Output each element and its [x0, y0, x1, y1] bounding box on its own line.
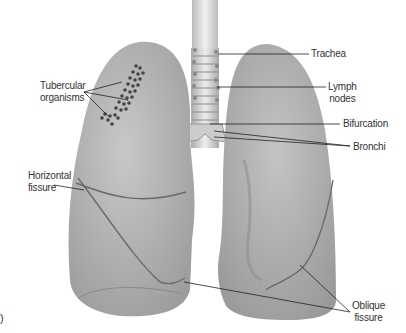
panel-marker: ) — [0, 312, 3, 324]
label-line: organisms — [40, 92, 85, 104]
label-lymph-nodes: Lymph nodes — [328, 81, 357, 105]
label-line: Oblique — [352, 300, 385, 312]
label-line: nodes — [328, 93, 357, 105]
label-line: Horizontal — [28, 170, 71, 182]
label-line: Lymph — [328, 81, 357, 93]
label-line: fissure — [352, 312, 385, 324]
label-line: Tubercular — [40, 80, 85, 92]
label-trachea: Trachea — [311, 48, 346, 60]
label-line: fissure — [28, 182, 71, 194]
label-oblique-fissure: Oblique fissure — [352, 300, 385, 324]
right-lung — [69, 42, 195, 316]
trachea — [184, 0, 226, 148]
label-tubercular-organisms: Tubercular organisms — [40, 80, 85, 104]
label-bifurcation: Bifurcation — [343, 118, 388, 130]
label-horizontal-fissure: Horizontal fissure — [28, 170, 71, 194]
left-lung — [218, 44, 336, 320]
label-bronchi: Bronchi — [353, 141, 386, 153]
